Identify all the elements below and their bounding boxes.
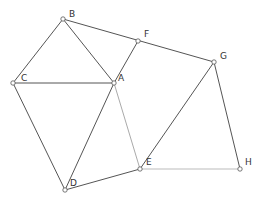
diagram-canvas: BCAFGDEH xyxy=(0,0,259,201)
segment-AD xyxy=(65,83,114,190)
point-label-H: H xyxy=(245,157,252,167)
segment-AE xyxy=(114,83,140,169)
segment-BA xyxy=(63,19,114,83)
point-F xyxy=(136,39,140,43)
point-label-D: D xyxy=(70,178,77,188)
point-H xyxy=(238,167,242,171)
point-A xyxy=(112,81,116,85)
segment-EG xyxy=(140,62,214,169)
segment-GH xyxy=(214,62,240,169)
segment-CD xyxy=(13,83,65,190)
point-D xyxy=(63,188,67,192)
point-G xyxy=(212,60,216,64)
point-label-G: G xyxy=(220,51,227,61)
point-E xyxy=(138,167,142,171)
point-B xyxy=(61,17,65,21)
point-C xyxy=(11,81,15,85)
point-label-B: B xyxy=(69,9,75,19)
point-label-A: A xyxy=(118,73,125,83)
point-label-C: C xyxy=(21,73,27,83)
point-label-E: E xyxy=(146,157,152,167)
point-label-F: F xyxy=(144,29,149,39)
geometry-diagram: BCAFGDEH xyxy=(0,0,259,201)
